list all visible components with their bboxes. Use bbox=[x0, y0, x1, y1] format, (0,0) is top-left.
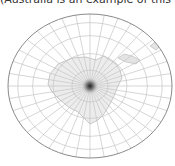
projection-map bbox=[0, 0, 175, 166]
center-point bbox=[80, 76, 100, 96]
